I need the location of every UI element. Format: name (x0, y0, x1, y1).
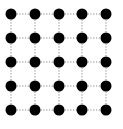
grid-node-r0-c3 (77, 9, 88, 20)
grid-node-r2-c0 (6, 57, 17, 68)
grid-node-r4-c4 (101, 105, 112, 116)
grid-node-r3-c1 (30, 81, 41, 92)
grid-node-r1-c0 (6, 33, 17, 44)
grid-nodes (6, 9, 112, 116)
grid-node-r2-c3 (77, 57, 88, 68)
grid-node-r3-c3 (77, 81, 88, 92)
grid-node-r0-c0 (6, 9, 17, 20)
grid-node-r3-c2 (54, 81, 65, 92)
grid-node-r3-c0 (6, 81, 17, 92)
grid-node-r4-c0 (6, 105, 17, 116)
grid-node-r1-c3 (77, 33, 88, 44)
grid-node-r4-c1 (30, 105, 41, 116)
grid-node-r1-c1 (30, 33, 41, 44)
grid-node-r2-c1 (30, 57, 41, 68)
grid-node-r1-c4 (101, 33, 112, 44)
grid-node-r4-c3 (77, 105, 88, 116)
grid-node-r0-c4 (101, 9, 112, 20)
grid-node-r2-c2 (54, 57, 65, 68)
grid-node-r1-c2 (54, 33, 65, 44)
grid-node-r0-c1 (30, 9, 41, 20)
grid-node-r2-c4 (101, 57, 112, 68)
grid-node-r4-c2 (54, 105, 65, 116)
grid-node-r0-c2 (54, 9, 65, 20)
grid-graph-diagram (0, 0, 123, 129)
grid-node-r3-c4 (101, 81, 112, 92)
